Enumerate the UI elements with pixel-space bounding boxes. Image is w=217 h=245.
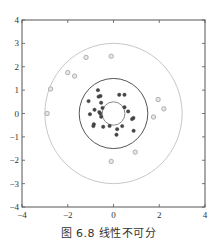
inner-class-point xyxy=(88,113,91,116)
outer-class-point xyxy=(109,54,113,58)
outer-class-point xyxy=(72,74,76,78)
y-tick-label: −1 xyxy=(9,132,19,142)
outer-class-point xyxy=(84,55,88,59)
inner-class-point xyxy=(96,88,99,91)
y-tick-label: 1 xyxy=(15,85,20,95)
y-tick-label: −4 xyxy=(9,202,19,212)
outer-class-point xyxy=(156,97,160,101)
inner-class-point xyxy=(115,127,118,130)
inner-class-point xyxy=(118,93,121,96)
outer-class-point xyxy=(66,70,70,74)
inner-class-point xyxy=(93,108,96,111)
outer-class-point xyxy=(109,159,113,163)
inner-class-point xyxy=(102,125,105,128)
inner-class-point xyxy=(101,106,104,109)
axis-ticks: −4−2024−4−3−2−101234 xyxy=(9,15,207,220)
scatter-chart: −4−2024−4−3−2−101234 xyxy=(0,0,217,245)
outer-class-point xyxy=(45,111,49,115)
y-tick-label: 4 xyxy=(15,15,20,25)
inner-class-point xyxy=(99,112,102,115)
inner-class-point xyxy=(99,115,102,118)
inner-class-point xyxy=(123,105,126,108)
inner-class-point xyxy=(130,117,133,120)
inner-boundary-circle xyxy=(102,102,125,125)
inner-class-point xyxy=(87,99,90,102)
inner-class-point xyxy=(115,133,118,136)
inner-class-point xyxy=(99,94,102,97)
x-tick-label: 0 xyxy=(111,210,116,220)
outer-class-point xyxy=(48,87,52,91)
inner-class-point xyxy=(120,124,123,127)
x-tick-label: 2 xyxy=(157,210,162,220)
inner-class-point xyxy=(126,110,129,113)
y-tick-label: 0 xyxy=(15,109,20,119)
inner-class-point xyxy=(123,93,126,96)
outer-class-point xyxy=(151,115,155,119)
outer-class-point xyxy=(162,107,166,111)
y-tick-label: −3 xyxy=(9,179,19,189)
y-tick-label: −2 xyxy=(9,155,19,165)
x-tick-label: 4 xyxy=(203,210,208,220)
outer-class-point xyxy=(133,150,137,154)
inner-class-point xyxy=(132,129,135,132)
inner-class-point xyxy=(108,124,111,127)
y-tick-label: 3 xyxy=(15,38,20,48)
y-tick-label: 2 xyxy=(15,62,20,72)
inner-class-point xyxy=(92,124,95,127)
x-tick-label: −2 xyxy=(63,210,73,220)
figure-caption: 图 6.8 线性不可分 xyxy=(0,224,217,240)
inner-class-point xyxy=(99,101,102,104)
